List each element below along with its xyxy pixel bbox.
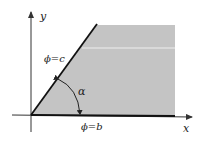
label-phi-b: ϕ=b — [81, 121, 103, 132]
label-phi-c: ϕ=c — [44, 53, 65, 64]
boundary-phi-b — [31, 115, 175, 116]
diagram-svg: y x ϕ=c ϕ=b α — [0, 0, 201, 141]
x-axis-label: x — [183, 122, 190, 135]
y-axis-label: y — [39, 10, 47, 23]
shaded-region — [31, 25, 175, 115]
wedge-diagram: y x ϕ=c ϕ=b α — [0, 0, 201, 141]
label-alpha: α — [78, 85, 86, 98]
